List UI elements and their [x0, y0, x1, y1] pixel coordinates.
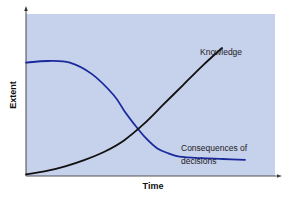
consequences-line-label-line2: decisions [181, 156, 216, 166]
chart: Time Extent Knowledge Consequences of de… [0, 0, 289, 199]
x-axis-arrowhead [277, 174, 282, 177]
x-axis-label: Time [143, 181, 164, 191]
knowledge-line-label: Knowledge [200, 47, 242, 57]
y-axis-label: Extent [8, 81, 18, 109]
consequences-line-label-line1: Consequences of [181, 143, 248, 153]
y-axis-arrowhead [24, 6, 28, 11]
